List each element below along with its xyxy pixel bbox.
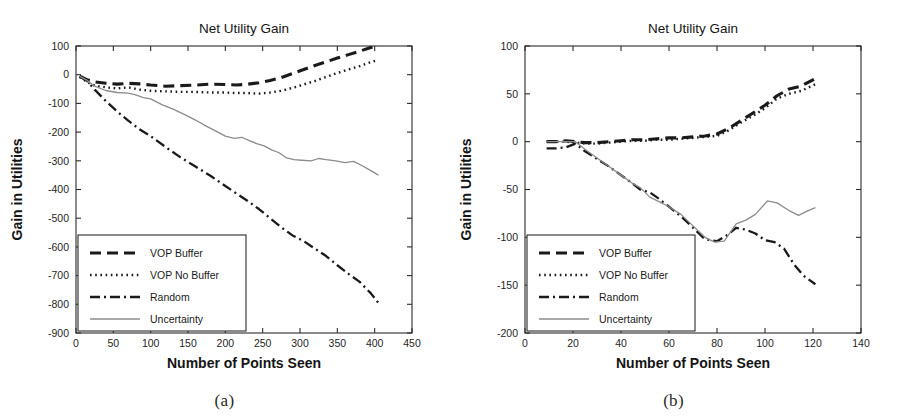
chart-title: Net Utility Gain (648, 21, 738, 36)
chart-b: 020406080100120140100500-50-100-150-200N… (449, 0, 898, 375)
y-tick-label: -300 (48, 155, 69, 167)
y-tick-label: -150 (497, 279, 518, 291)
legend-label-uncertainty: Uncertainty (150, 313, 204, 325)
x-tick-label: 300 (291, 337, 309, 349)
x-tick-label: 400 (366, 337, 384, 349)
x-tick-label: 350 (329, 337, 347, 349)
x-tick-label: 50 (107, 337, 119, 349)
y-tick-label: -600 (48, 241, 69, 253)
y-tick-label: -50 (503, 183, 518, 195)
x-tick-label: 80 (711, 337, 723, 349)
legend-label-uncertainty: Uncertainty (599, 313, 653, 325)
chart-a: 0501001502002503003504004501000-100-200-… (0, 0, 449, 375)
figure-panel-a: 0501001502002503003504004501000-100-200-… (0, 0, 449, 417)
y-tick-label: 0 (512, 135, 518, 147)
x-tick-label: 20 (567, 337, 579, 349)
legend-label-vop-buffer: VOP Buffer (150, 247, 203, 259)
x-tick-label: 0 (73, 337, 79, 349)
figure-caption-b: (b) (449, 391, 898, 411)
y-tick-label: 0 (63, 68, 69, 80)
y-axis-title: Gain in Utilities (9, 138, 25, 240)
legend-label-random: Random (150, 291, 190, 303)
x-tick-label: 250 (254, 337, 272, 349)
y-tick-label: -200 (497, 327, 518, 339)
x-tick-label: 60 (663, 337, 675, 349)
legend-label-vop-no-buffer: VOP No Buffer (599, 269, 669, 281)
figure-caption-a: (a) (0, 391, 449, 411)
x-tick-label: 140 (852, 337, 870, 349)
legend-label-vop-buffer: VOP Buffer (599, 247, 652, 259)
x-axis-title: Number of Points Seen (167, 355, 321, 371)
y-tick-label: -500 (48, 212, 69, 224)
legend-label-vop-no-buffer: VOP No Buffer (150, 269, 220, 281)
y-tick-label: -400 (48, 183, 69, 195)
x-tick-label: 40 (615, 337, 627, 349)
y-tick-label: 50 (506, 88, 518, 100)
y-tick-label: -100 (497, 231, 518, 243)
x-axis-title: Number of Points Seen (616, 355, 770, 371)
y-axis-title: Gain in Utilities (458, 138, 474, 240)
x-tick-label: 100 (756, 337, 774, 349)
x-tick-label: 150 (179, 337, 197, 349)
x-tick-label: 450 (403, 337, 421, 349)
x-tick-label: 120 (804, 337, 822, 349)
x-tick-label: 200 (217, 337, 235, 349)
y-tick-label: -200 (48, 126, 69, 138)
x-tick-label: 0 (522, 337, 528, 349)
y-tick-label: 100 (500, 40, 518, 52)
y-tick-label: -800 (48, 298, 69, 310)
figure-sheet: 0501001502002503003504004501000-100-200-… (0, 0, 898, 417)
figure-panel-b: 020406080100120140100500-50-100-150-200N… (449, 0, 898, 417)
x-tick-label: 100 (142, 337, 160, 349)
chart-title: Net Utility Gain (199, 21, 289, 36)
y-tick-label: -900 (48, 327, 69, 339)
y-tick-label: -100 (48, 97, 69, 109)
legend-label-random: Random (599, 291, 639, 303)
y-tick-label: 100 (51, 40, 69, 52)
y-tick-label: -700 (48, 269, 69, 281)
